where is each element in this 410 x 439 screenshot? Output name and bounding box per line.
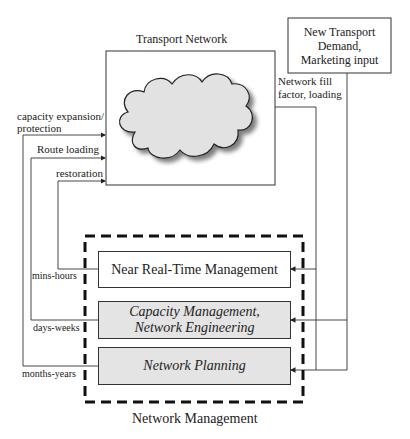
capacity-management-label-2: Network Engineering: [134, 320, 254, 336]
cloud-icon: [120, 74, 253, 158]
capacity-management-label-1: Capacity Management,: [129, 304, 260, 320]
transport-network-title: Transport Network: [136, 32, 227, 47]
near-real-time-box: Near Real-Time Management: [98, 251, 291, 288]
fill-factor-label-1: Network fill: [278, 75, 332, 87]
network-planning-label: Network Planning: [143, 358, 245, 374]
network-management-title: Network Management: [132, 411, 258, 427]
demand-line-1: New Transport: [304, 25, 376, 39]
days-weeks-label: days-weeks: [33, 322, 80, 334]
restoration-label: restoration: [56, 167, 103, 179]
fill-factor-label-2: factor, loading: [278, 88, 342, 100]
capacity-expansion-label-2: protection: [17, 122, 62, 134]
network-planning-box: Network Planning: [98, 347, 291, 385]
demand-line-2: Demand,: [318, 39, 362, 53]
capacity-expansion-label-1: capacity expansion/: [17, 110, 104, 122]
route-loading-label: Route loading: [37, 143, 99, 155]
demand-box: New Transport Demand, Marketing input: [288, 18, 391, 73]
near-real-time-label: Near Real-Time Management: [111, 262, 278, 278]
demand-line-3: Marketing input: [301, 53, 379, 67]
capacity-management-box: Capacity Management, Network Engineering: [98, 301, 291, 339]
mins-hours-label: mins-hours: [32, 270, 77, 282]
months-years-label: months-years: [22, 368, 76, 380]
